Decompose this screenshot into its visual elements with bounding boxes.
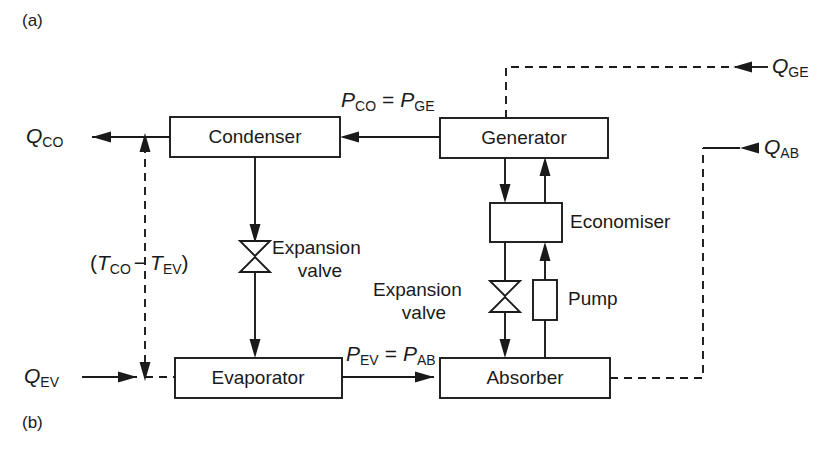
label-expansion-valve-left-line1: Expansion — [272, 237, 361, 258]
label-qab: QAB — [764, 135, 799, 161]
label-expansion-valve-right-line1: Expansion — [373, 279, 462, 300]
qab-arrowhead — [740, 143, 759, 154]
pco-base: P — [341, 88, 355, 111]
qge-sub: GE — [788, 64, 808, 80]
label-condenser: Condenser — [209, 126, 303, 147]
dashed-arrow-up-to-qco — [140, 133, 151, 152]
evaporator-to-absorber-line — [342, 372, 434, 383]
label-temperature-difference: (TCO−TEV) — [90, 251, 189, 277]
qge-base: Q — [772, 54, 788, 77]
economiser-to-absorber-line — [490, 242, 520, 358]
temp-minus: − — [134, 251, 146, 274]
generator-to-economiser-line — [500, 157, 511, 203]
pab-sub: AB — [417, 352, 436, 368]
dashed-arrow-down-to-qev — [140, 362, 151, 381]
tev-sub: EV — [163, 261, 182, 277]
label-expansion-valve-left-line2: valve — [298, 260, 342, 281]
pump-to-economiser-arrowhead — [540, 242, 551, 261]
label-evaporator: Evaporator — [212, 367, 306, 388]
pressure-bottom-eq: = — [385, 342, 397, 365]
pev-base: P — [346, 342, 360, 365]
dashed-qab-link — [610, 143, 759, 379]
absorber-to-economiser-line — [533, 242, 557, 358]
qco-flow-line — [92, 132, 170, 143]
label-expansion-valve-right-line2: valve — [402, 302, 446, 323]
figure-canvas: Condenser Generator Evaporator Absorber … — [0, 0, 832, 463]
label-generator: Generator — [481, 127, 567, 148]
label-pressure-bottom: PEV=PAB — [346, 342, 436, 368]
absorber-in-arrowhead — [500, 339, 511, 358]
qco-sub: CO — [42, 134, 63, 150]
dashed-qge-link — [506, 62, 768, 119]
label-qev: QEV — [24, 364, 60, 390]
block-economiser[interactable] — [490, 203, 562, 242]
pge-base: P — [400, 88, 414, 111]
absorption-cycle-diagram: Condenser Generator Evaporator Absorber … — [0, 0, 832, 463]
label-qco: QCO — [26, 124, 63, 150]
temp-close-paren: ) — [182, 251, 189, 274]
evaporator-to-absorber-arrowhead — [415, 372, 434, 383]
qab-sub: AB — [780, 145, 799, 161]
pressure-top-eq: = — [382, 88, 394, 111]
qev-sub: EV — [40, 374, 59, 390]
generator-to-economiser-arrowhead — [500, 184, 511, 203]
label-pressure-top: PCO=PGE — [341, 88, 435, 114]
label-qge: QGE — [772, 54, 809, 80]
qge-arrowhead — [733, 62, 752, 73]
qev-flow-line — [82, 372, 137, 383]
label-pump: Pump — [568, 288, 618, 309]
economiser-to-generator-arrowhead — [540, 157, 551, 176]
pab-base: P — [403, 342, 417, 365]
label-economiser: Economiser — [570, 211, 671, 232]
generator-to-condenser-arrowhead — [340, 132, 359, 143]
qco-arrowhead — [92, 132, 111, 143]
qco-base: Q — [26, 124, 42, 147]
qev-arrowhead — [118, 372, 137, 383]
expansion-valve-right-icon — [490, 281, 520, 312]
generator-to-condenser-line — [340, 132, 440, 143]
pco-sub: CO — [355, 98, 376, 114]
pge-sub: GE — [414, 98, 434, 114]
qev-base: Q — [24, 364, 40, 387]
qab-base: Q — [764, 135, 780, 158]
pump-symbol — [533, 280, 557, 320]
temp-open-paren: ( — [90, 251, 97, 274]
tco-sub: CO — [110, 261, 131, 277]
condenser-to-evaporator-line — [240, 156, 270, 358]
pev-sub: EV — [360, 352, 379, 368]
panel-label-a: (a) — [22, 11, 43, 30]
evaporator-in-arrowhead — [250, 339, 261, 358]
panel-label-b: (b) — [22, 413, 43, 432]
expansion-valve-left-icon — [240, 241, 270, 272]
label-absorber: Absorber — [486, 367, 564, 388]
economiser-to-generator-line — [540, 157, 551, 203]
